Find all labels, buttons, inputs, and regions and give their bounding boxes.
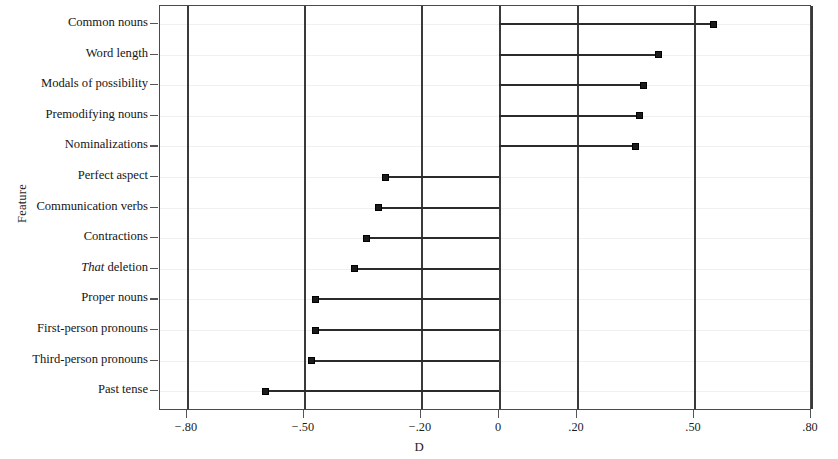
row-gridline <box>160 55 810 56</box>
y-axis-tick <box>150 360 158 361</box>
x-axis-tick-label: .50 <box>663 420 723 435</box>
category-label: Modals of possibility <box>0 77 148 90</box>
category-label: Common nouns <box>0 16 148 29</box>
y-axis-tick <box>150 268 158 269</box>
data-stem <box>499 84 643 86</box>
y-axis-tick <box>150 237 158 238</box>
data-point-marker <box>655 51 662 58</box>
data-point-marker <box>312 327 319 334</box>
category-label: Third-person pronouns <box>0 353 148 366</box>
x-gridline <box>577 6 579 409</box>
x-axis-tick <box>810 410 811 418</box>
x-gridline <box>187 6 189 409</box>
category-label: Premodifying nouns <box>0 108 148 121</box>
y-axis-tick <box>150 298 158 299</box>
x-gridline <box>499 6 501 409</box>
data-stem <box>499 115 639 117</box>
x-axis-tick-label: .80 <box>780 420 838 435</box>
category-label: That deletion <box>0 261 148 274</box>
plot-area <box>159 5 811 410</box>
y-axis-tick <box>150 84 158 85</box>
data-stem <box>316 329 499 331</box>
category-label: Contractions <box>0 230 148 243</box>
x-axis-tick <box>303 410 304 418</box>
x-axis-title: D <box>0 440 838 455</box>
x-gridline <box>304 6 306 409</box>
x-axis-tick <box>693 410 694 418</box>
y-axis-tick <box>150 390 158 391</box>
category-label: Communication verbs <box>0 200 148 213</box>
data-stem <box>355 268 499 270</box>
x-axis-tick-label: −.80 <box>156 420 216 435</box>
y-axis-tick <box>150 115 158 116</box>
y-axis-tick <box>150 329 158 330</box>
figure-dot-plot: Feature Common nounsWord lengthModals of… <box>0 0 838 459</box>
x-axis-tick-label: 0 <box>468 420 528 435</box>
category-label: Past tense <box>0 383 148 396</box>
data-point-marker <box>640 82 647 89</box>
x-axis-tick-label: −.20 <box>390 420 450 435</box>
row-gridline <box>160 116 810 117</box>
data-point-marker <box>351 265 358 272</box>
data-point-marker <box>363 235 370 242</box>
data-stem <box>499 23 714 25</box>
y-axis-tick <box>150 207 158 208</box>
category-label: Word length <box>0 47 148 60</box>
x-gridline <box>694 6 696 409</box>
data-point-marker <box>375 204 382 211</box>
data-stem <box>312 360 499 362</box>
row-gridline <box>160 85 810 86</box>
x-axis-tick-label: −.50 <box>273 420 333 435</box>
y-axis-tick <box>150 145 158 146</box>
y-axis-tick <box>150 54 158 55</box>
data-stem <box>378 207 499 209</box>
data-stem <box>366 237 499 239</box>
data-point-marker <box>632 143 639 150</box>
data-stem <box>316 298 499 300</box>
x-axis-tick <box>420 410 421 418</box>
category-label: Perfect aspect <box>0 169 148 182</box>
x-axis-tick <box>186 410 187 418</box>
category-label: Nominalizations <box>0 138 148 151</box>
data-stem <box>499 54 659 56</box>
data-point-marker <box>382 174 389 181</box>
row-gridline <box>160 146 810 147</box>
data-point-marker <box>262 388 269 395</box>
category-label: Proper nouns <box>0 291 148 304</box>
x-axis-tick-label: .20 <box>546 420 606 435</box>
y-axis-tick <box>150 23 158 24</box>
data-stem <box>499 145 636 147</box>
x-axis-tick <box>498 410 499 418</box>
category-label: First-person pronouns <box>0 322 148 335</box>
category-label-column: Common nounsWord lengthModals of possibi… <box>0 0 148 420</box>
data-stem <box>265 390 499 392</box>
x-axis-tick <box>576 410 577 418</box>
data-point-marker <box>312 296 319 303</box>
data-point-marker <box>308 357 315 364</box>
data-stem <box>386 176 499 178</box>
data-point-marker <box>636 112 643 119</box>
y-axis-tick <box>150 176 158 177</box>
x-gridline <box>811 6 813 409</box>
data-point-marker <box>710 21 717 28</box>
